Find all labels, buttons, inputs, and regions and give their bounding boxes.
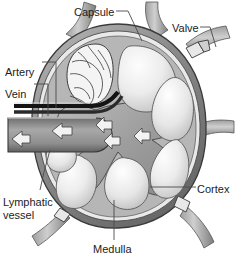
efferent-vessel-lower-right	[180, 206, 214, 248]
lymph-node-diagram	[0, 0, 240, 261]
label-vein: Vein	[5, 88, 26, 100]
label-lymphatic-vessel: Lymphaticvessel	[3, 196, 53, 221]
label-artery: Artery	[5, 66, 34, 78]
label-medulla: Medulla	[93, 243, 132, 255]
label-capsule: Capsule	[74, 6, 114, 18]
germinal-region	[67, 44, 113, 104]
label-lymphatic-vessel-line1: Lymphatic	[3, 196, 53, 208]
label-lymphatic-vessel-line2: vessel	[3, 209, 34, 221]
label-cortex: Cortex	[197, 183, 229, 195]
label-valve: Valve	[172, 22, 199, 34]
